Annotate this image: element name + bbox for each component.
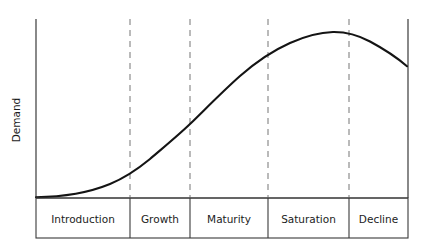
stage-label-introduction: Introduction [51,213,115,225]
chart-canvas: Introduction Growth Maturity Saturation … [0,0,427,252]
stage-label-maturity: Maturity [207,213,251,225]
y-axis-title: Demand [10,98,22,143]
stage-label-decline: Decline [359,213,398,225]
demand-curve-path [36,32,407,197]
stage-label-saturation: Saturation [281,213,336,225]
product-life-cycle-chart: Introduction Growth Maturity Saturation … [0,0,427,252]
stage-label-growth: Growth [141,213,179,225]
